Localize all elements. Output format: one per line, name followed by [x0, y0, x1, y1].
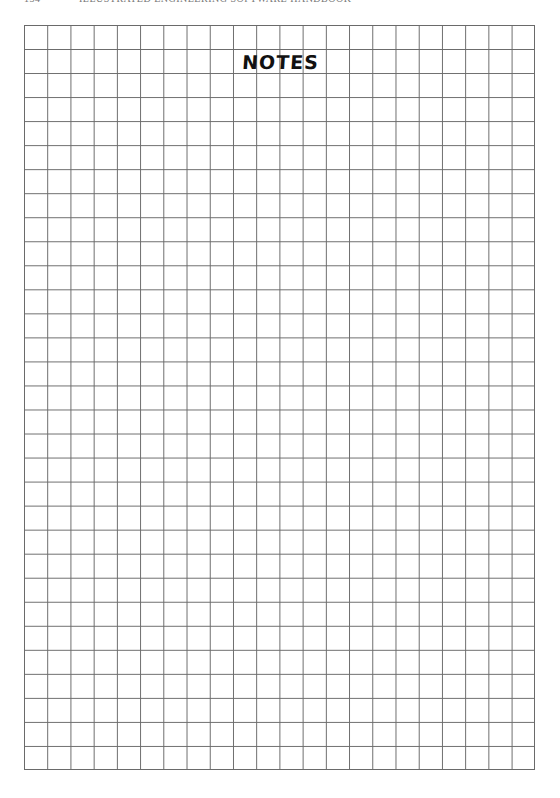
running-head: 134 ILLUSTRATED ENGINEERING SOFTWARE HAN… — [24, 0, 351, 5]
page-number: 134 — [24, 0, 76, 4]
notes-title-text: NOTES — [241, 51, 319, 73]
notes-grid: NOTES — [24, 25, 535, 770]
notes-title: NOTES — [24, 50, 537, 74]
running-head-title: ILLUSTRATED ENGINEERING SOFTWARE HANDBOO… — [79, 0, 351, 4]
